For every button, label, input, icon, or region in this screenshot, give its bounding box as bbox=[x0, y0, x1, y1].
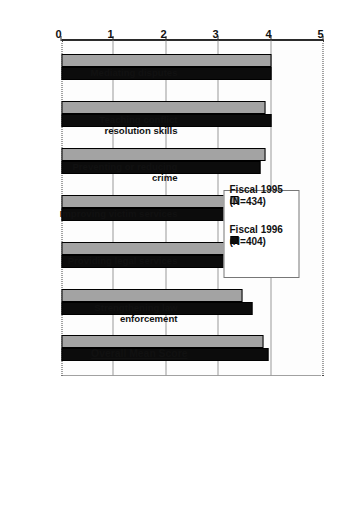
category-label: Providing legal services bbox=[57, 255, 177, 266]
category-label: Improving victim services bbox=[57, 208, 177, 219]
category-axis-cell: Strengthening law enforcement bbox=[1, 288, 59, 316]
axis-tick-label: 3 bbox=[194, 28, 218, 40]
legend-item-fiscal-1996: Fiscal 1996 (N=404) bbox=[229, 236, 293, 274]
category-axis-cell: Providing legal services bbox=[1, 241, 59, 269]
bar bbox=[61, 148, 265, 161]
axis-tick-label: 1 bbox=[89, 28, 113, 40]
category-label: Mediating disputes bbox=[57, 67, 177, 78]
category-label: Teaching conflict resolution skills bbox=[57, 114, 177, 136]
bar bbox=[61, 101, 265, 114]
category-axis-cell: Overall Mean Score bbox=[1, 334, 59, 362]
category-axis-cell: Mediating disputes bbox=[1, 53, 59, 81]
bar bbox=[61, 54, 271, 67]
bar bbox=[61, 335, 263, 348]
legend-label-fiscal-1996: Fiscal 1996 (N=404) bbox=[229, 224, 293, 247]
bar bbox=[61, 242, 244, 255]
category-axis-cell: Teaching conflict resolution skills bbox=[1, 100, 59, 128]
category-label: Strengthening law enforcement bbox=[57, 302, 177, 324]
bar bbox=[61, 289, 242, 302]
category-label: Preventing or reducing crime bbox=[57, 161, 177, 183]
axis-tick-label: 2 bbox=[142, 28, 166, 40]
category-axis-cell: Improving victim services bbox=[1, 194, 59, 222]
axis-tick-label: 5 bbox=[299, 28, 323, 40]
legend-label-fiscal-1995: Fiscal 1995 (N=434) bbox=[229, 184, 293, 207]
category-axis-cell: Preventing or reducing crime bbox=[1, 147, 59, 175]
category-label: Overall Mean Score bbox=[57, 348, 187, 359]
chart-canvas: 012345 Fiscal 1995 (N=434) Fiscal 1996 (… bbox=[0, 0, 341, 508]
chart-legend: Fiscal 1995 (N=434) Fiscal 1996 (N=404) bbox=[223, 190, 299, 278]
axis-tick-label: 0 bbox=[37, 28, 61, 40]
category-axis: Mediating disputesTeaching conflict reso… bbox=[1, 40, 59, 376]
axis-tick-label: 4 bbox=[247, 28, 271, 40]
